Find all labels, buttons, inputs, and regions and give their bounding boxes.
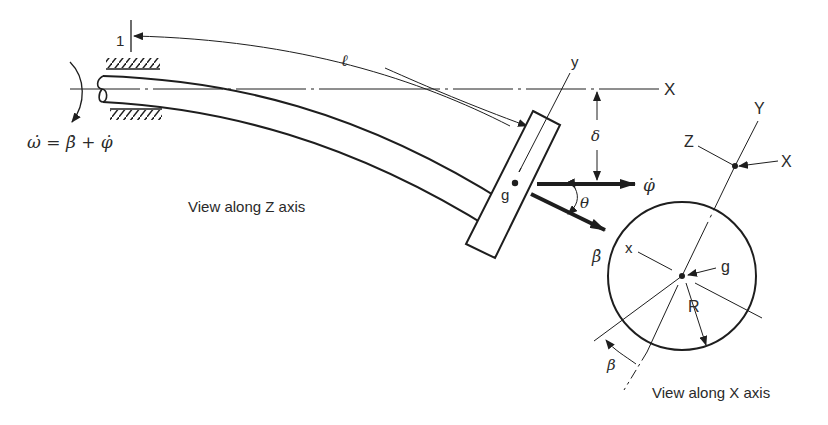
radial-line-left — [594, 276, 682, 341]
center-g-point — [512, 180, 518, 186]
length-label: ℓ — [341, 51, 348, 70]
g-pointer-arrow — [688, 268, 716, 275]
right-view-labels: Y Z X x g R β View along X axis — [606, 100, 792, 401]
length-dimension-arc — [134, 36, 510, 126]
beta-label: β — [606, 356, 616, 374]
view-x-caption: View along X axis — [652, 384, 770, 401]
beta-dot-label: β̇ — [591, 247, 601, 266]
shaft-disk-diagram: 1 ℓ X y δ g φ̇ θ β̇ ω̇ = β̇ + φ̇ View al… — [0, 0, 828, 425]
station-label: 1 — [116, 32, 124, 49]
x-axis-arrow — [739, 161, 778, 166]
disk-x-axis — [638, 252, 672, 270]
view-z-caption: View along Z axis — [188, 198, 305, 215]
phi-dot-label: φ̇ — [643, 175, 655, 195]
theta-label: θ — [580, 194, 589, 212]
radial-line-down — [647, 285, 678, 352]
omega-rotation-arrow — [70, 62, 82, 122]
omega-equation: ω̇ = β̇ + φ̇ — [27, 132, 113, 152]
X-axis-label-right: X — [781, 153, 792, 170]
x-axis-label-disk: x — [625, 239, 633, 256]
center-g-label: g — [501, 186, 509, 203]
x-axis-label: X — [664, 80, 675, 99]
beta-dot-vector — [531, 194, 605, 230]
theta-angle-arc — [568, 188, 577, 214]
support-bottom-hatch — [110, 110, 162, 120]
right-view-x — [594, 121, 778, 390]
delta-label: δ — [591, 127, 600, 145]
z-axis-line — [698, 146, 733, 165]
radius-label: R — [688, 298, 700, 315]
support-top-hatch — [106, 58, 160, 68]
y-axis-label: y — [571, 53, 579, 70]
triad-origin — [732, 163, 738, 169]
Y-axis-label: Y — [754, 100, 765, 117]
Z-axis-label: Z — [684, 133, 694, 150]
g-label-right: g — [721, 258, 730, 275]
